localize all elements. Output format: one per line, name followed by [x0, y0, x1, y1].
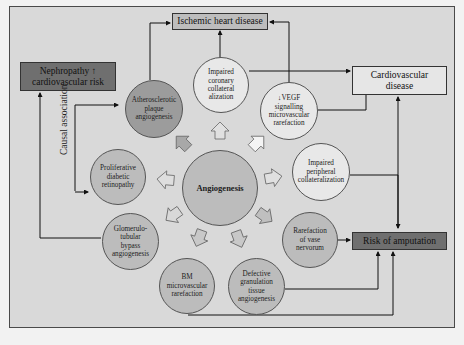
node-label: Rarefaction of vase nervorum: [290, 227, 330, 252]
ischemic-heart-disease-box: Ischemic heart disease: [172, 13, 268, 30]
node-label: Impaired peripheral collateralization: [297, 159, 345, 184]
cardiovascular-disease-label: Cardiovascular disease: [367, 70, 432, 92]
node-bm: BM microvascular rarefaction: [159, 258, 215, 314]
ischemic-heart-disease-label: Ischemic heart disease: [177, 16, 262, 27]
cardiovascular-disease-box: Cardiovascular disease: [352, 66, 447, 95]
node-peripheral: Impaired peripheral collateralization: [292, 143, 350, 201]
angiogenesis-label: Angiogenesis: [196, 184, 243, 192]
node-label: Defective granulation tissue angiogenesi…: [234, 270, 279, 304]
node-vegf: ↓VEGF signalling microvascular rarefacti…: [260, 82, 318, 140]
risk-of-amputation-box: Risk of amputation: [352, 232, 447, 250]
angiogenesis-center-node: Angiogenesis: [182, 150, 258, 226]
node-label: Proliferative diabetic retinopathy: [97, 164, 139, 189]
node-label: BM microvascular rarefaction: [166, 273, 208, 298]
risk-of-amputation-label: Risk of amputation: [363, 236, 436, 247]
node-granulation: Defective granulation tissue angiogenesi…: [228, 258, 285, 315]
causal-association-label: Causal association: [59, 85, 69, 155]
node-coronary: Impaired coronary collateral alization: [193, 57, 249, 113]
node-glomerulo: Glomerulo- tubular bypass angiogenesis: [102, 213, 159, 270]
node-label: Atherosclerotic plaque angiogenesis: [128, 96, 180, 121]
node-label: Glomerulo- tubular bypass angiogenesis: [110, 225, 151, 259]
node-label: ↓VEGF signalling microvascular rarefacti…: [263, 94, 315, 128]
node-vase-nervorum: Rarefaction of vase nervorum: [282, 212, 338, 268]
node-retinopathy: Proliferative diabetic retinopathy: [90, 149, 146, 205]
node-label: Impaired coronary collateral alization: [200, 68, 242, 102]
node-atherosclerotic: Atherosclerotic plaque angiogenesis: [125, 80, 183, 138]
